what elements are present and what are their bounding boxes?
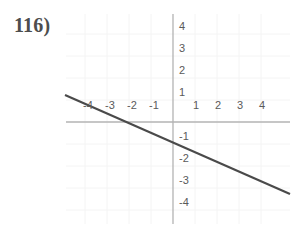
y-tick-label-3: 3: [179, 43, 185, 54]
y-tick-label-2: 2: [179, 65, 185, 76]
tick-label-layer: -4 -3 -2 -1 1 2 3 4 4 3 2 1 -1 -2 -3 -4: [0, 0, 298, 238]
x-tick-label-4: 4: [259, 100, 265, 111]
x-tick-label-3: 3: [237, 100, 243, 111]
x-tick-label-neg4: -4: [83, 100, 93, 111]
x-tick-label-2: 2: [215, 100, 221, 111]
x-tick-label-neg3: -3: [105, 100, 115, 111]
y-tick-label-neg4: -4: [179, 197, 189, 208]
y-tick-label-1: 1: [179, 87, 185, 98]
y-tick-label-neg3: -3: [179, 175, 189, 186]
graph-figure: 116) -4 -3 -2: [0, 0, 298, 238]
x-tick-label-neg1: -1: [149, 100, 159, 111]
x-tick-label-neg2: -2: [127, 100, 137, 111]
x-tick-label-1: 1: [193, 100, 199, 111]
y-tick-label-neg1: -1: [179, 131, 189, 142]
y-tick-label-neg2: -2: [179, 153, 189, 164]
y-tick-label-4: 4: [179, 21, 185, 32]
